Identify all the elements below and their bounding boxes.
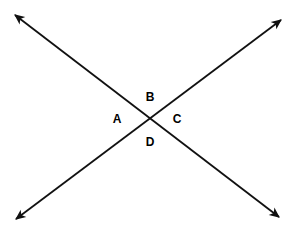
angle-label-a: A xyxy=(113,113,122,125)
angle-label-c: C xyxy=(173,113,182,125)
intersecting-lines-svg xyxy=(0,0,296,237)
angle-label-d: D xyxy=(146,136,155,148)
diagram-canvas: A B C D xyxy=(0,0,296,237)
line-top-left-to-bottom-right xyxy=(15,15,279,217)
angle-label-b: B xyxy=(146,91,155,103)
